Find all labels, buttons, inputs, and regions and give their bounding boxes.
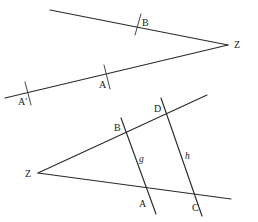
point-B-label: B [142, 17, 149, 28]
lower-vertex-Z-label: Z [25, 168, 31, 179]
lower-angle-lower-ray [38, 173, 231, 199]
upper-angle-upper-ray [50, 10, 228, 45]
geometry-figure: B A A' Z Z B D A C g h [0, 0, 258, 222]
point-A-prime-label: A' [18, 96, 27, 107]
upper-vertex-Z-label: Z [234, 39, 240, 50]
lower-angle-upper-ray [38, 95, 207, 173]
line-g-label: g [139, 154, 144, 164]
geometry-canvas: B A A' Z Z B D A C g h [0, 0, 258, 222]
lower-point-D-label: D [154, 103, 161, 114]
lower-angle-group: Z B D A C g h [25, 95, 231, 216]
transversal-line-h [161, 98, 202, 216]
line-h-label: h [185, 151, 190, 161]
lower-point-C-label: C [192, 202, 199, 213]
lower-point-B-label: B [114, 122, 121, 133]
point-B-tick-icon [135, 14, 141, 35]
upper-angle-lower-ray [5, 45, 228, 98]
lower-point-A-label: A [139, 198, 147, 209]
point-A-label: A [99, 79, 107, 90]
upper-angle-group: B A A' Z [5, 10, 240, 107]
